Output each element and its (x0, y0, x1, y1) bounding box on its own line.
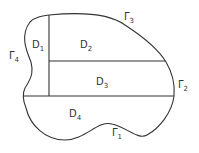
region-label-d3: D3 (96, 77, 108, 90)
boundary-label-gamma1: Γ1 (112, 128, 122, 141)
boundary-label-gamma3: Γ3 (124, 12, 134, 25)
region-label-d2: D2 (80, 40, 92, 53)
boundary-label-gamma2: Γ2 (178, 80, 188, 93)
region-label-d1: D1 (32, 40, 44, 53)
region-label-d4: D4 (69, 109, 81, 122)
boundary-label-gamma4: Γ4 (9, 51, 19, 64)
